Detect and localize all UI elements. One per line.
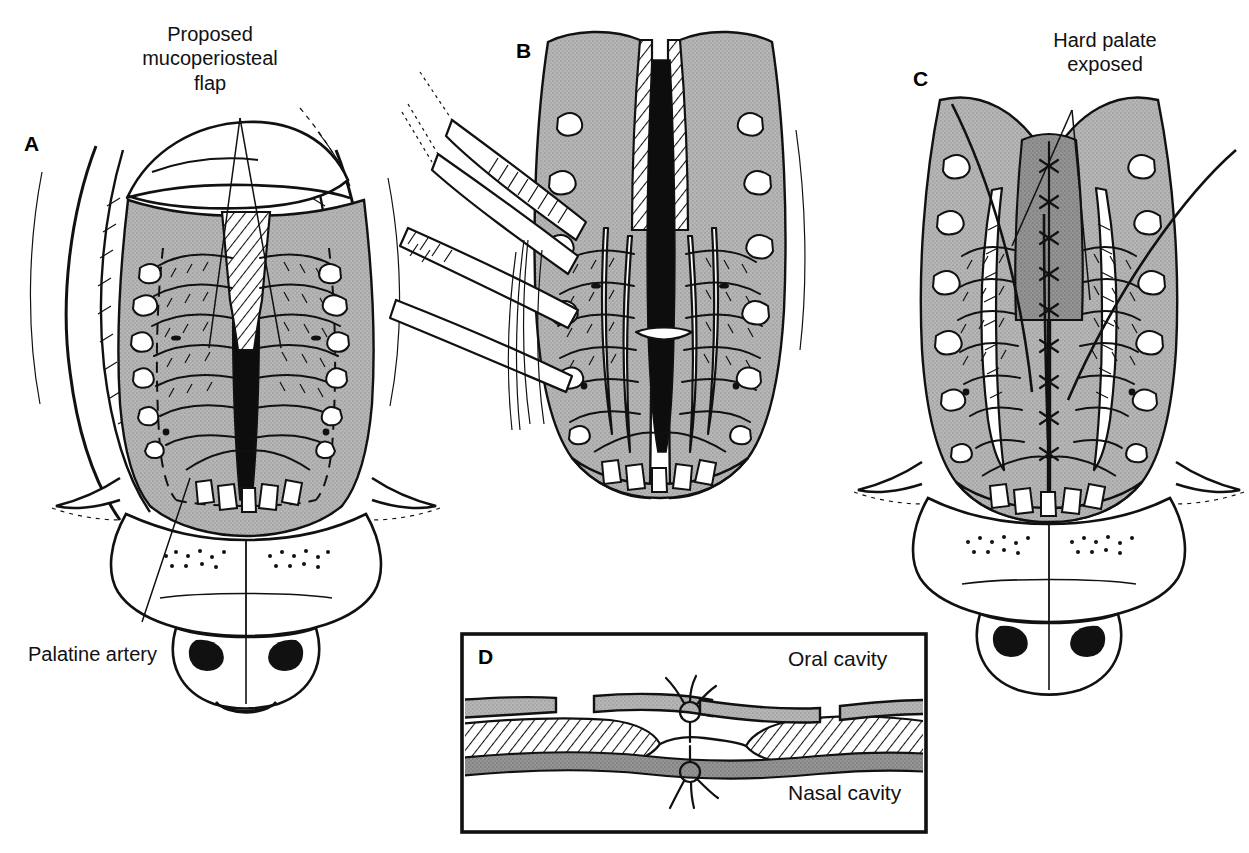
surgical-illustration-plate: A B C D Proposed mucoperiosteal flap Pal… <box>0 0 1249 853</box>
panel-letter-d: D <box>478 646 494 667</box>
callout-palatine-artery: Palatine artery <box>28 642 238 666</box>
callout-proposed-mucoperiosteal-flap: Proposed mucoperiosteal flap <box>110 22 310 95</box>
panel-letter-c: C <box>913 68 929 89</box>
panel-c-figure <box>854 98 1244 695</box>
panel-letter-a: A <box>24 133 40 154</box>
panel-a-upper-lip <box>126 108 350 208</box>
callout-hard-palate-exposed: Hard palate exposed <box>1010 28 1200 77</box>
label-nasal-cavity: Nasal cavity <box>788 782 901 803</box>
panel-c-tongue <box>913 498 1185 695</box>
label-oral-cavity: Oral cavity <box>788 648 887 669</box>
forceps-handle-dots <box>402 72 452 162</box>
panel-a-tongue <box>111 514 381 713</box>
panel-b-figure <box>390 32 805 498</box>
panel-letter-b: B <box>516 40 532 61</box>
panel-a-palate <box>118 200 373 536</box>
illustration-canvas <box>0 0 1249 853</box>
panel-a-figure <box>30 108 440 713</box>
